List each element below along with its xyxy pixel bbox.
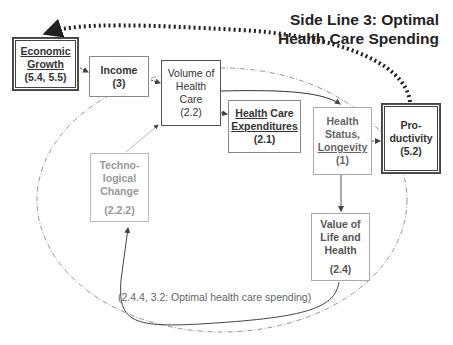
node-label: Health (324, 244, 356, 257)
node-label: Health (326, 115, 358, 128)
node-ref: (1) (336, 154, 349, 167)
node-label: ductivity (389, 132, 432, 145)
node-value-of-life-and-health: Value of Life and Health (2.4) (311, 213, 370, 281)
node-volume-health-care: Volume of Health Care (2.2) (161, 60, 221, 126)
node-label-part: Health (235, 107, 267, 119)
node-label: Techno- (99, 159, 139, 172)
loop-annotation: (2.4.4, 3.2: Optimal health care spendin… (118, 291, 311, 303)
node-ref: (2.4) (330, 263, 352, 276)
node-label: Care (180, 93, 203, 106)
node-label: logical (103, 172, 136, 185)
node-economic-growth: Economic Growth (5.4, 5.5) (12, 37, 79, 91)
node-label: Volume of (168, 67, 215, 80)
node-ref: (2.2.2) (104, 204, 134, 217)
node-label: Longevity (318, 141, 368, 154)
node-ref: (3) (113, 77, 126, 90)
node-label: Change (100, 185, 139, 198)
node-health-status-longevity: Health Status, Longevity (1) (313, 107, 372, 175)
node-label: Economic (20, 45, 70, 58)
node-productivity: Pro- ductivity (5.2) (381, 103, 441, 174)
node-technological-change: Techno- logical Change (2.2.2) (90, 153, 149, 222)
node-label: Health (176, 80, 206, 93)
node-label: Growth (27, 58, 64, 71)
node-label: Pro- (401, 119, 422, 132)
node-ref: (5.4, 5.5) (24, 71, 66, 84)
title-line-1: Side Line 3: Optimal (278, 10, 439, 29)
node-ref: (5.2) (400, 145, 422, 158)
node-label: Expenditures (231, 120, 298, 133)
diagram-title: Side Line 3: Optimal Health Care Spendin… (278, 10, 439, 48)
node-health-care-expenditures: Health Care Expenditures (2.1) (228, 100, 301, 153)
node-income: Income (3) (89, 56, 149, 97)
node-ref: (2.1) (254, 133, 276, 146)
node-ref: (2.2) (180, 106, 202, 119)
node-label-part: Care (267, 107, 293, 119)
node-label: Income (101, 64, 138, 77)
title-line-2: Health Care Spending (278, 29, 439, 48)
node-label: Status, (325, 128, 360, 141)
node-label: Life and (320, 231, 360, 244)
node-label: Value of (320, 218, 360, 231)
node-label: Health Care (235, 107, 293, 120)
